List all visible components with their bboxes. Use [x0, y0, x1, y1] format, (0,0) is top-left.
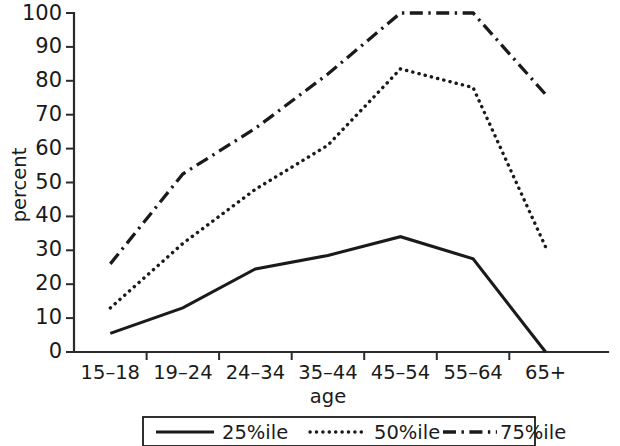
- y-tick-label-70: 70: [35, 102, 62, 126]
- chart-figure: 0 10 20 30 40 50 60 70 80 90 100 15–18 1…: [0, 0, 620, 446]
- percentile-line-chart: 0 10 20 30 40 50 60 70 80 90 100 15–18 1…: [0, 0, 620, 446]
- y-tick-label-20: 20: [35, 271, 62, 295]
- y-tick-label-50: 50: [35, 170, 62, 194]
- y-tick-label-100: 100: [22, 1, 62, 25]
- y-tick-label-30: 30: [35, 237, 62, 261]
- x-tick-label-24-34: 24–34: [226, 361, 285, 384]
- x-tick-label-35-44: 35–44: [298, 361, 357, 384]
- y-tick-label-40: 40: [35, 203, 62, 227]
- legend-label-25pctile: 25%ile: [222, 421, 288, 444]
- x-tick-label-65plus: 65+: [525, 361, 566, 384]
- x-tick-label-45-54: 45–54: [371, 361, 430, 384]
- x-tick-label-55-64: 55–64: [443, 361, 502, 384]
- y-tick-label-80: 80: [35, 68, 62, 92]
- legend-label-75pctile: 75%ile: [500, 421, 566, 444]
- legend-label-50pctile: 50%ile: [374, 421, 440, 444]
- x-axis-title: age: [310, 385, 346, 408]
- y-tick-label-60: 60: [35, 136, 62, 160]
- x-tick-label-15-18: 15–18: [81, 361, 140, 384]
- x-tick-label-19-24: 19–24: [153, 361, 212, 384]
- y-tick-label-0: 0: [49, 339, 62, 363]
- y-tick-label-10: 10: [35, 305, 62, 329]
- y-tick-label-90: 90: [35, 34, 62, 58]
- y-axis-title: percent: [8, 147, 31, 222]
- x-tick-labels: 15–18 19–24 24–34 35–44 45–54 55–64 65+: [81, 361, 567, 384]
